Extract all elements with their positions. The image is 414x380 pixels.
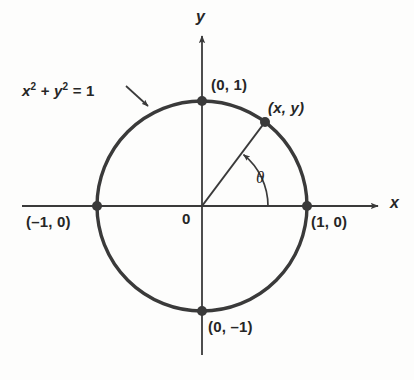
- point-marker-right: [302, 201, 312, 211]
- point-marker-top: [197, 96, 207, 106]
- theta-label: θ: [256, 168, 265, 188]
- point-marker-bottom: [197, 306, 207, 316]
- y-axis-label: y: [196, 8, 205, 26]
- x-axis-label: x: [390, 194, 399, 212]
- origin-label: 0: [182, 210, 191, 227]
- equation-plus-sign: +: [36, 82, 54, 99]
- point-label-left: (–1, 0): [26, 213, 71, 230]
- point-label-bottom: (0, –1): [208, 318, 253, 335]
- point-label-right: (1, 0): [311, 213, 347, 230]
- equation-y-symbol: y: [54, 82, 63, 99]
- unit-circle-figure: x2 + y2 = 1 (0, 1) (x, y) (–1, 0) (1, 0)…: [0, 0, 414, 380]
- point-label-xy: (x, y): [268, 99, 304, 116]
- point-label-top: (0, 1): [211, 76, 247, 93]
- equation-callout-arrow: [126, 86, 148, 106]
- equation-equals-one: = 1: [68, 82, 94, 99]
- point-marker-left: [92, 201, 102, 211]
- equation-x-symbol: x: [22, 82, 31, 99]
- radius-segment: [202, 122, 265, 206]
- point-marker-xy: [260, 117, 270, 127]
- equation-label: x2 + y2 = 1: [22, 82, 95, 99]
- diagram-canvas: [0, 0, 414, 380]
